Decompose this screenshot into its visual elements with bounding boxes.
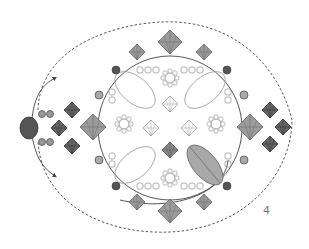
bicone-dark [262, 136, 278, 152]
bicone-crystal-dark [162, 142, 178, 158]
round-pearl [95, 156, 103, 164]
seed-bead-dark [47, 111, 54, 118]
perimeter-crystals [80, 30, 263, 223]
seed-bead [225, 89, 231, 95]
seed-bead [197, 67, 203, 73]
bicone-crystal [196, 194, 212, 210]
seed-bead [145, 183, 151, 189]
navette-bottom-right-highlighted [180, 139, 229, 191]
round-pearl [112, 66, 120, 74]
step-number-label: 4 [263, 204, 270, 217]
seed-bead [181, 183, 187, 189]
left-side-cluster [20, 102, 80, 154]
round-pearl [223, 66, 231, 74]
seed-bead [145, 67, 151, 73]
seed-bead-dark [39, 111, 46, 118]
seed-bead [189, 67, 195, 73]
bicone-crystal [162, 96, 178, 112]
seed-bead-dark [47, 139, 54, 146]
seed-bead [137, 183, 143, 189]
seed-bead [153, 67, 159, 73]
seed-bead [109, 161, 115, 167]
bicone-crystal [181, 120, 197, 136]
perimeter-bicone-left [80, 114, 106, 140]
bicone-crystal [129, 44, 145, 60]
seed-bead [153, 183, 159, 189]
seed-bead [109, 153, 115, 159]
rivoli-dark [20, 117, 38, 139]
bicone-crystal [129, 194, 145, 210]
bicone-crystal [143, 120, 159, 136]
perimeter-bicone-top [158, 30, 182, 54]
chaton-montee [161, 169, 179, 187]
bicone-dark [64, 138, 80, 154]
bicone-crystal [196, 44, 212, 60]
perimeter-bicone-bottom [158, 199, 182, 223]
seed-bead [109, 97, 115, 103]
bicone-dark [51, 120, 67, 136]
round-pearl [240, 156, 248, 164]
round-pearl [240, 91, 248, 99]
round-pearl [223, 182, 231, 190]
seed-bead-dark [39, 139, 46, 146]
seed-bead [137, 67, 143, 73]
seed-bead [197, 183, 203, 189]
seed-bead [109, 89, 115, 95]
seed-bead [189, 183, 195, 189]
seed-bead [225, 153, 231, 159]
bicone-dark [64, 102, 80, 118]
bicone-dark [262, 102, 278, 118]
chaton-montee [115, 115, 133, 133]
seed-bead [225, 97, 231, 103]
right-side-cluster [262, 102, 291, 152]
beadwork-diagram: 4 [0, 0, 309, 249]
bicone-dark [275, 119, 291, 135]
chaton-montee [207, 115, 225, 133]
chaton-montee [161, 69, 179, 87]
round-pearl [112, 182, 120, 190]
round-pearl [95, 91, 103, 99]
seed-bead [181, 67, 187, 73]
